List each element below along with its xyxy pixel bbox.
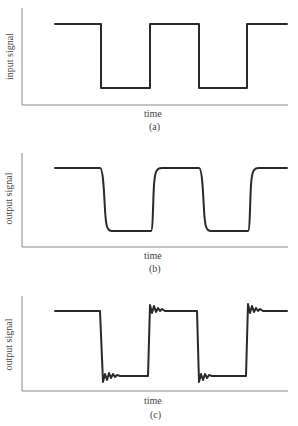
panel-b-plot — [22, 153, 288, 247]
panel-a-xlabel: time — [144, 108, 162, 119]
panel-c-caption: (c) — [150, 409, 161, 420]
panel-c-xlabel: time — [144, 395, 162, 406]
panel-a-axes — [22, 8, 288, 105]
panel-a-caption: (a) — [149, 121, 160, 132]
panel-c-plot — [22, 296, 288, 391]
panel-c-output-ringing-wave — [55, 304, 287, 382]
panel-b-caption: (b) — [149, 263, 161, 274]
panel-a-input-square-wave — [55, 24, 287, 88]
panel-b-ylabel: output signal — [3, 166, 14, 232]
panel-a-ylabel: input signal — [4, 27, 15, 87]
panel-a-plot — [22, 8, 288, 105]
panel-b-xlabel: time — [144, 250, 162, 261]
figure-canvas — [0, 0, 298, 426]
panel-c-ylabel: output signal — [3, 312, 14, 378]
panel-b-output-rounded-wave — [55, 168, 287, 231]
